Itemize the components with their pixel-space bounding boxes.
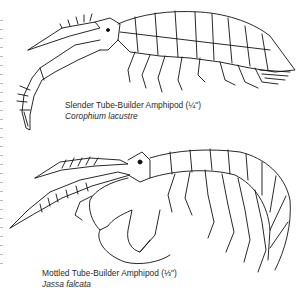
jassa-illustration	[0, 0, 298, 293]
document-page: Slender Tube-Builder Amphipod (¼") Corop…	[0, 0, 298, 293]
caption-common-name: Slender Tube-Builder Amphipod (¼")	[65, 100, 201, 111]
caption-jassa: Mottled Tube-Builder Amphipod (⅓") Jassa…	[42, 268, 177, 289]
caption-scientific-name: Corophium lacustre	[65, 111, 201, 122]
caption-common-name: Mottled Tube-Builder Amphipod (⅓")	[42, 268, 177, 279]
caption-corophium: Slender Tube-Builder Amphipod (¼") Corop…	[65, 100, 201, 121]
caption-scientific-name: Jassa falcata	[42, 279, 177, 290]
